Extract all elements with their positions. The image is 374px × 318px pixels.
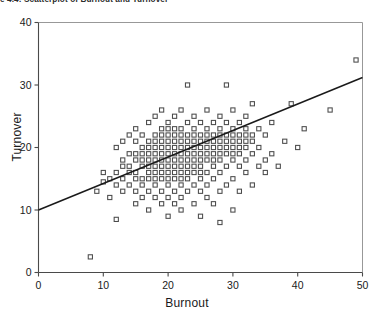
x-axis-title: Burnout <box>0 296 374 310</box>
svg-text:40: 40 <box>20 16 32 28</box>
svg-text:50: 50 <box>357 279 369 291</box>
tick-labels: 01020304001020304050 <box>20 16 369 290</box>
svg-text:20: 20 <box>162 279 174 291</box>
svg-text:0: 0 <box>26 266 32 278</box>
data-points <box>88 58 358 259</box>
svg-text:30: 30 <box>227 279 239 291</box>
trendline <box>39 78 363 211</box>
figure-container: e 4.4: Scatterplot of Burnout and Turnov… <box>0 0 374 318</box>
svg-text:30: 30 <box>20 79 32 91</box>
scatter-plot: 01020304001020304050 <box>0 0 374 318</box>
svg-text:40: 40 <box>292 279 304 291</box>
svg-text:10: 10 <box>97 279 109 291</box>
y-axis-title: Turnover <box>10 92 24 182</box>
svg-text:0: 0 <box>36 279 42 291</box>
svg-text:10: 10 <box>20 204 32 216</box>
